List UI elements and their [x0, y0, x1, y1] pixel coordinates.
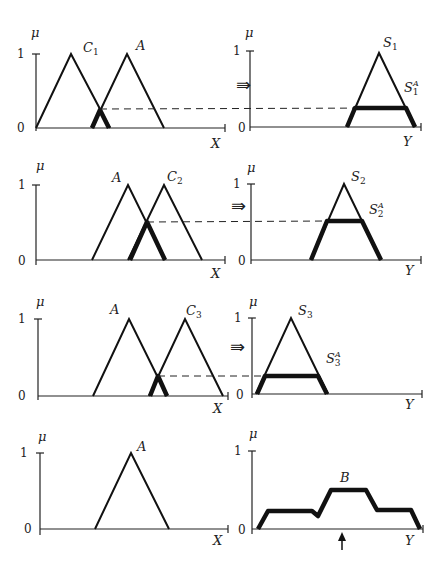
- centroid-arrow-icon: [338, 532, 346, 550]
- label-c1: C1: [83, 40, 99, 57]
- intersection-a-c3: [150, 376, 167, 396]
- fuzzy-inference-diagram: μ 1 0 X C1 A ⇛ μ 1 0 Y S1 SA1 μ 1 0 X: [0, 0, 447, 573]
- row-2-right-panel: μ 1 0 Y S2 SA2: [233, 160, 421, 278]
- label-c3: C3: [186, 303, 202, 320]
- row-1-right-panel: μ 1 0 Y S1 SA1: [233, 25, 421, 149]
- implication-arrow-3: ⇛: [230, 336, 245, 357]
- x-label: X: [212, 533, 223, 548]
- label-s1-a: SA1: [404, 79, 419, 97]
- intersection-c1-a: [92, 110, 109, 128]
- implication-arrow-1: ⇛: [236, 74, 251, 95]
- set-s3: [256, 318, 328, 394]
- row-3-left-panel: μ 1 0 X A C3: [18, 294, 228, 416]
- zero-label: 0: [18, 254, 26, 268]
- one-label: 1: [234, 444, 242, 458]
- one-label: 1: [18, 312, 26, 326]
- row-4-left-panel: μ 1 0 X A: [20, 429, 228, 548]
- implication-arrow-2: ⇛: [231, 195, 246, 216]
- row-2-left-panel: μ 1 0 X A C2: [18, 158, 225, 281]
- label-s1: S1: [383, 35, 398, 52]
- output-set-b: [258, 490, 420, 529]
- mu-label: μ: [38, 429, 46, 444]
- mu-label: μ: [36, 294, 44, 309]
- label-b: B: [339, 470, 350, 485]
- zero-label: 0: [238, 254, 246, 268]
- zero-label: 0: [17, 121, 25, 135]
- x-label: X: [210, 136, 221, 151]
- clipped-s1: [347, 108, 415, 127]
- y-label: Y: [403, 134, 413, 149]
- label-s3-a: SA3: [326, 350, 341, 368]
- label-a: A: [135, 38, 145, 53]
- row-4-right-panel: μ 1 0 Y B: [234, 426, 423, 550]
- y-label: Y: [405, 397, 415, 412]
- one-label: 1: [18, 178, 26, 192]
- x-label: X: [212, 401, 223, 416]
- label-a: A: [111, 170, 121, 185]
- y-label: Y: [405, 533, 415, 548]
- zero-label: 0: [236, 388, 244, 402]
- set-a: [95, 453, 169, 529]
- zero-label: 0: [238, 121, 246, 135]
- mu-label: μ: [247, 160, 255, 175]
- row-2-match-level: [147, 221, 330, 222]
- one-label: 1: [233, 177, 241, 191]
- intersection-a-c2: [130, 222, 165, 260]
- mu-label: μ: [245, 25, 253, 40]
- mu-label: μ: [31, 25, 39, 40]
- clipped-s3: [257, 376, 327, 394]
- zero-label: 0: [238, 523, 246, 537]
- label-a: A: [136, 439, 146, 454]
- zero-label: 0: [18, 389, 26, 403]
- label-s2-a: SA2: [369, 201, 384, 219]
- one-label: 1: [20, 446, 28, 460]
- mu-label: μ: [36, 158, 44, 173]
- mu-label: μ: [249, 426, 257, 441]
- mu-label: μ: [249, 294, 257, 309]
- label-s2: S2: [351, 169, 366, 186]
- one-label: 1: [233, 44, 241, 58]
- label-c2: C2: [167, 169, 183, 186]
- set-a: [92, 185, 165, 260]
- label-s3: S3: [298, 303, 313, 320]
- clipped-s2: [311, 221, 381, 260]
- row-1-match-level: [100, 108, 385, 109]
- zero-label: 0: [24, 522, 32, 536]
- one-label: 1: [234, 311, 242, 325]
- y-label: Y: [405, 263, 415, 278]
- label-a: A: [109, 302, 119, 317]
- set-c2: [128, 185, 202, 260]
- x-label: X: [210, 266, 221, 281]
- row-1-left-panel: μ 1 0 X C1 A: [17, 25, 225, 151]
- one-label: 1: [17, 47, 25, 61]
- row-3-right-panel: μ 1 0 Y S3 SA3: [234, 294, 422, 412]
